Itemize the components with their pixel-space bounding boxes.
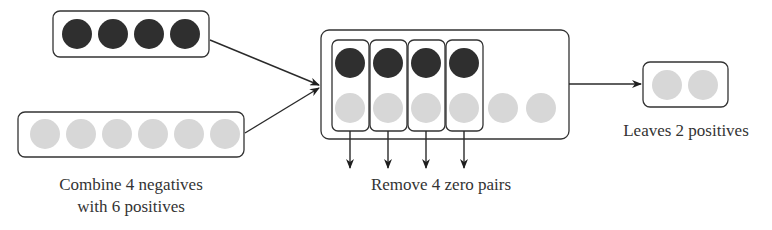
positive-counter-icon (373, 93, 403, 123)
negative-counter-icon (411, 48, 441, 78)
positive-counter-icon (30, 119, 60, 149)
positive-counter-icon (488, 93, 518, 123)
arrow-positives-to-combined (245, 88, 319, 133)
negative-counter-icon (98, 19, 128, 49)
positives-group (18, 112, 244, 157)
positive-counter-icon (526, 93, 556, 123)
positive-counter-icon (138, 119, 168, 149)
negative-counter-icon (170, 19, 200, 49)
result-group (643, 62, 728, 107)
negative-counter-icon (335, 48, 365, 78)
leaves-label: Leaves 2 positives (623, 121, 749, 140)
remove-label: Remove 4 zero pairs (371, 175, 511, 194)
positive-counter-icon (411, 93, 441, 123)
positive-counter-icon (449, 93, 479, 123)
positive-counter-icon (210, 119, 240, 149)
positive-counter-icon (652, 70, 682, 100)
zero-pairs-diagram: Combine 4 negatives with 6 positives Rem… (0, 0, 772, 230)
combined-group (321, 30, 569, 139)
positive-counter-icon (335, 93, 365, 123)
combine-label-line1: Combine 4 negatives (59, 175, 203, 194)
positive-counter-icon (688, 70, 718, 100)
negative-counter-icon (134, 19, 164, 49)
negative-counter-icon (449, 48, 479, 78)
combine-label-line2: with 6 positives (77, 197, 185, 216)
positive-counter-icon (102, 119, 132, 149)
positive-counter-icon (174, 119, 204, 149)
negative-counter-icon (62, 19, 92, 49)
positive-counter-icon (66, 119, 96, 149)
arrow-negatives-to-combined (210, 40, 319, 85)
negatives-group (53, 11, 209, 57)
negative-counter-icon (373, 48, 403, 78)
